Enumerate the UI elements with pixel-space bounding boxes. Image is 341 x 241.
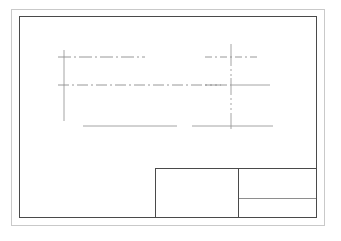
right-view	[192, 44, 273, 129]
title-field-text	[156, 169, 238, 173]
drawing-number-text	[239, 169, 316, 173]
scale-text	[239, 199, 316, 203]
left-view	[58, 50, 222, 126]
title-block-scale-cell[interactable]	[239, 199, 316, 217]
title-block-right-column	[239, 169, 316, 217]
title-block-drawing-number-cell[interactable]	[239, 169, 316, 199]
title-block[interactable]	[155, 168, 317, 218]
title-block-main-cell[interactable]	[156, 169, 239, 217]
drawing-sheet	[0, 0, 341, 241]
